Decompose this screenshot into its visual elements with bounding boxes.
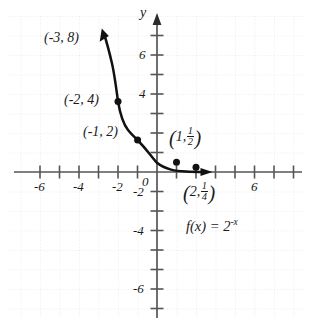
fraction-one-half: 1 2 bbox=[187, 126, 194, 149]
equation-equals: = bbox=[210, 218, 220, 234]
coordinate-plane-svg bbox=[0, 0, 311, 325]
dot-1-half bbox=[173, 159, 180, 166]
x-tick-label-neg4: -4 bbox=[73, 180, 84, 193]
point-lead-1-half: 1, bbox=[176, 130, 187, 144]
y-tick-label-6: 6 bbox=[139, 48, 146, 61]
point-label-neg2-4: (-2, 4) bbox=[64, 93, 99, 107]
paren-open-1-half: ( bbox=[169, 129, 176, 147]
fraction-one-quarter: 1 4 bbox=[201, 181, 208, 204]
point-label-neg1-2: (-1, 2) bbox=[83, 125, 118, 139]
y-tick-label-neg2: -2 bbox=[133, 185, 144, 198]
fraction-numerator-1: 1 bbox=[187, 126, 194, 137]
y-tick-label-neg6: -6 bbox=[133, 282, 144, 295]
y-axis-label: y bbox=[140, 6, 146, 20]
x-tick-label-neg6: -6 bbox=[34, 180, 45, 193]
graph-figure: y 0 -6 -4 -2 6 6 4 -2 -4 -6 (-3, 8) (-2,… bbox=[0, 0, 311, 325]
y-tick-label-4: 4 bbox=[139, 87, 146, 100]
paren-close-2-quarter: ) bbox=[208, 184, 215, 202]
fraction-numerator-1b: 1 bbox=[201, 181, 208, 192]
point-label-1-one-half: ( 1, 1 2 ) bbox=[169, 126, 201, 149]
y-tick-label-neg4: -4 bbox=[133, 224, 144, 237]
point-lead-2-quarter: 2, bbox=[190, 185, 201, 199]
dot-neg1-2 bbox=[134, 137, 141, 144]
x-tick-label-6: 6 bbox=[251, 180, 258, 193]
fraction-denominator-2: 2 bbox=[187, 136, 194, 148]
point-label-2-one-quarter: ( 2, 1 4 ) bbox=[183, 181, 215, 204]
equation-arg: (x) bbox=[190, 218, 206, 234]
dot-neg2-4 bbox=[115, 98, 122, 105]
paren-close-1-half: ) bbox=[194, 129, 201, 147]
dot-2-quarter bbox=[193, 164, 200, 171]
x-tick-label-neg2: -2 bbox=[112, 180, 123, 193]
function-equation-label: f(x) = 2-x bbox=[186, 218, 238, 233]
equation-exponent: -x bbox=[230, 217, 237, 227]
point-label-neg3-8: (-3, 8) bbox=[44, 31, 79, 45]
fraction-denominator-4: 4 bbox=[201, 191, 208, 203]
paren-open-2-quarter: ( bbox=[183, 184, 190, 202]
